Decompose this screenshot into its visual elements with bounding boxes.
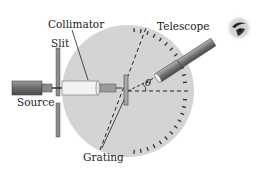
theta-label: θ: [145, 78, 151, 88]
grating-label: Grating: [83, 152, 124, 163]
slit-label: Slit: [51, 38, 69, 49]
spectrometer-diagram: Collimator Slit Telescope Source Grating…: [0, 0, 266, 173]
telescope-label: Telescope: [157, 21, 210, 32]
observer-eye: [226, 15, 252, 41]
diffraction-grating: [124, 75, 128, 105]
light-source: [12, 81, 52, 95]
slit: [56, 48, 60, 137]
diagram-graphics: [0, 0, 266, 173]
source-label: Source: [17, 97, 54, 108]
collimator-label: Collimator: [48, 19, 104, 30]
